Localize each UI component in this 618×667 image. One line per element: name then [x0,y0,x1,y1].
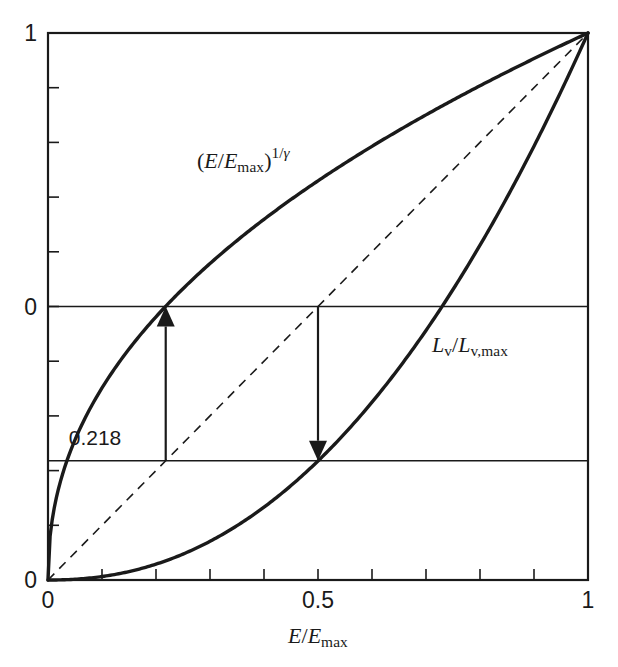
gamma-transfer-chart: 1 0 0 0 0.5 1 E/Emax (E/Emax)1/γ Lv/Lv,m… [0,0,618,667]
x-axis-title: E/Emax [288,625,348,650]
upper-label-exponent-gamma: γ [283,144,289,161]
upper-label-sub2: max [237,158,264,175]
x-axis-title-var2: E [308,623,321,648]
upper-label-var: E [204,148,217,173]
y-axis-label-top: 1 [24,22,37,45]
x-axis-title-var: E [288,623,301,648]
y-axis-label-mid: 0 [24,295,37,318]
upper-curve-label: (E/Emax)1/γ [197,145,290,174]
x-axis-label-half: 0.5 [302,589,334,612]
upper-label-exponent: 1/γ [272,144,290,161]
x-axis-label-one: 1 [582,589,595,612]
lower-label-sub: v [444,342,452,359]
up-arrow-head [157,307,175,327]
plot-canvas [0,0,618,667]
x-axis-title-sub2: max [321,633,348,650]
lower-label-var2: L [458,332,470,357]
lower-label-var: L [432,332,444,357]
x-axis-label-zero: 0 [42,589,55,612]
upper-label-var2: E [224,148,237,173]
upper-label-close-paren: ) [264,148,271,173]
gamma-offset-annotation: 0.218 [69,427,122,448]
lower-label-sub2: v,max [470,342,508,359]
lower-curve-label: Lv/Lv,max [432,334,508,359]
upper-label-exponent-num: 1/ [272,144,284,161]
down-arrow-head [309,441,327,461]
y-axis-label-bottom: 0 [24,569,37,592]
